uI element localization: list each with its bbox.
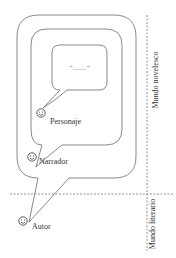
mundo-literario-label: Mundo literario bbox=[148, 199, 157, 249]
narrator-speech-bubble bbox=[31, 29, 122, 167]
speech-content: “.......” bbox=[70, 65, 90, 71]
autor-label: Autor bbox=[32, 222, 51, 231]
personaje-label: Personaje bbox=[50, 117, 82, 126]
character-speech-bubble bbox=[43, 45, 107, 108]
personaje-smiley-icon bbox=[37, 109, 45, 117]
narrador-smiley-icon bbox=[28, 153, 36, 161]
mundo-novelesco-label: Mundo novelesco bbox=[151, 51, 160, 108]
narrador-label: Narrador bbox=[39, 157, 68, 166]
narrative-levels-diagram: “.......” Personaje Narrador Autor Mundo… bbox=[0, 0, 176, 258]
autor-smiley-icon bbox=[19, 217, 27, 225]
